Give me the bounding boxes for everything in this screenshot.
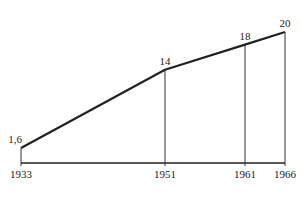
x-tick-label: 1951 — [154, 168, 176, 180]
line-chart: 1933195119611966 1,6141820 — [0, 0, 307, 201]
x-tick-label: 1933 — [10, 168, 33, 180]
data-label: 14 — [160, 55, 172, 67]
data-label: 1,6 — [8, 133, 22, 145]
x-tick-label: 1966 — [274, 168, 297, 180]
data-label: 20 — [280, 17, 292, 29]
drop-lines — [21, 32, 285, 166]
data-label: 18 — [240, 30, 252, 42]
x-tick-labels: 1933195119611966 — [10, 168, 297, 180]
x-tick-label: 1961 — [234, 168, 256, 180]
data-labels: 1,6141820 — [8, 17, 291, 145]
